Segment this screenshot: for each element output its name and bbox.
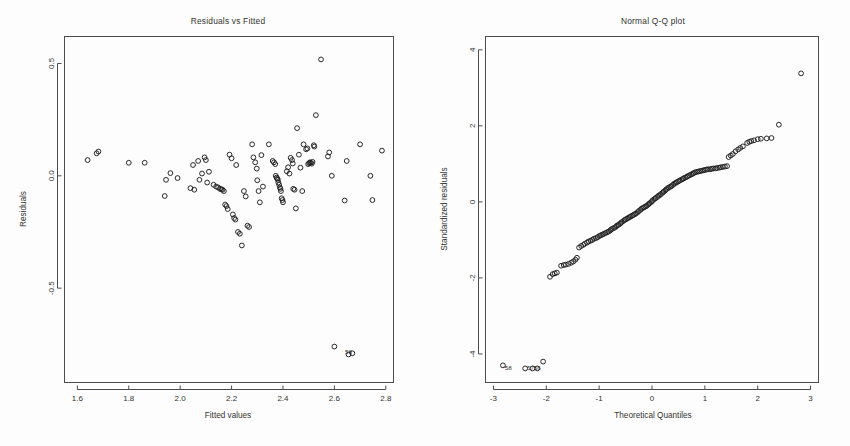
data-point [242, 189, 247, 194]
y-tick-label: 2 [468, 123, 477, 128]
scatter-points-right [501, 71, 804, 371]
data-point [368, 173, 373, 178]
x-axis-label-left: Fitted values [205, 411, 251, 420]
data-point [164, 177, 169, 182]
y-tick-label: 0.5 [47, 57, 56, 69]
x-tick-label: 2.4 [277, 394, 289, 403]
data-point [259, 153, 264, 158]
data-point [290, 161, 295, 166]
data-point [191, 163, 196, 168]
data-point [270, 159, 275, 164]
x-axis-label-right: Theoretical Quantiles [614, 411, 691, 420]
x-tick-label: 2.0 [175, 394, 187, 403]
y-tick-label: 4 [468, 47, 477, 52]
y-tick-label: -2 [468, 274, 477, 282]
x-tick-label: 1.8 [123, 394, 135, 403]
data-point [85, 158, 90, 163]
data-point [197, 177, 202, 182]
data-point [769, 136, 774, 141]
data-point [168, 171, 173, 176]
data-point [225, 207, 230, 212]
data-point [253, 160, 258, 165]
data-point [255, 178, 260, 183]
data-point [541, 359, 546, 364]
data-point [293, 206, 298, 211]
data-point [200, 171, 205, 176]
data-point [250, 142, 255, 147]
data-point [301, 142, 306, 147]
x-tick-label: 1.6 [72, 394, 84, 403]
data-point [126, 160, 131, 165]
data-point [257, 200, 262, 205]
x-tick-label: 2.8 [380, 394, 392, 403]
data-point [175, 176, 180, 181]
x-tick-label: 1 [703, 394, 708, 403]
data-point [319, 57, 324, 62]
residuals-vs-fitted-svg: Residuals vs Fitted 1.61.82.02.22.42.62.… [0, 0, 425, 446]
data-point [251, 155, 256, 160]
data-point [297, 152, 302, 157]
y-axis-label-right: Standardized residuals [440, 167, 449, 250]
x-tick-label: -2 [543, 394, 551, 403]
data-point [332, 344, 337, 349]
y-tick-label: -4 [468, 350, 477, 358]
data-point [142, 160, 147, 165]
data-point [380, 148, 385, 153]
chart-title-qq: Normal Q-Q plot [621, 16, 685, 26]
data-point [342, 198, 347, 203]
point-annotation: 58 [345, 348, 352, 355]
data-point [799, 71, 804, 76]
data-point [300, 189, 305, 194]
x-tick-label: 2 [755, 394, 760, 403]
data-point [329, 173, 334, 178]
data-point [207, 169, 212, 174]
data-point [292, 187, 297, 192]
point-annotation: 56 [534, 364, 541, 371]
x-tick-label: 0 [650, 394, 655, 403]
x-tick-label: 2.2 [226, 394, 238, 403]
data-point [295, 126, 300, 131]
scatter-points-left [85, 57, 384, 357]
data-point [196, 159, 201, 164]
data-point [358, 142, 363, 147]
x-tick-label: 2.6 [329, 394, 341, 403]
data-point [298, 165, 303, 170]
data-point [776, 122, 781, 127]
data-point [239, 243, 244, 248]
x-tick-label: -1 [596, 394, 604, 403]
data-point [243, 194, 248, 199]
data-point [764, 136, 769, 141]
normal-qq-svg: Normal Q-Q plot -3-2-10123 420-2-4 58575… [425, 0, 850, 446]
data-point [313, 113, 318, 118]
data-point [305, 146, 310, 151]
y-axis-label-left: Residuals [19, 191, 28, 227]
x-axis-ticks-right: -3-2-10123 [490, 386, 813, 403]
data-point [254, 166, 259, 171]
y-tick-label: -0.5 [47, 281, 56, 295]
x-axis-ticks-left: 1.61.82.02.22.42.62.8 [72, 386, 392, 403]
y-axis-ticks-left: 0.50.0-0.5 [47, 57, 62, 295]
data-point [256, 189, 261, 194]
y-tick-label: 0.0 [47, 170, 56, 182]
normal-qq-panel: Normal Q-Q plot -3-2-10123 420-2-4 58575… [425, 0, 850, 446]
data-point [205, 180, 210, 185]
data-point [758, 136, 763, 141]
x-tick-label: -3 [490, 394, 498, 403]
data-point [344, 159, 349, 164]
plot-frame-right [486, 37, 819, 383]
data-point [261, 184, 266, 189]
data-point [162, 194, 167, 199]
data-point [234, 163, 239, 168]
data-point [370, 198, 375, 203]
diagnostic-plots-figure: Residuals vs Fitted 1.61.82.02.22.42.62.… [0, 0, 850, 446]
data-point [266, 142, 271, 147]
point-annotation: 58 [505, 364, 512, 371]
x-tick-label: 3 [808, 394, 813, 403]
plot-frame-left [65, 37, 394, 383]
point-labels-left: 58 [345, 348, 352, 355]
y-tick-label: 0 [468, 199, 477, 204]
residuals-vs-fitted-panel: Residuals vs Fitted 1.61.82.02.22.42.62.… [0, 0, 425, 446]
chart-title-residuals: Residuals vs Fitted [191, 16, 266, 26]
y-axis-ticks-right: 420-2-4 [468, 47, 483, 358]
